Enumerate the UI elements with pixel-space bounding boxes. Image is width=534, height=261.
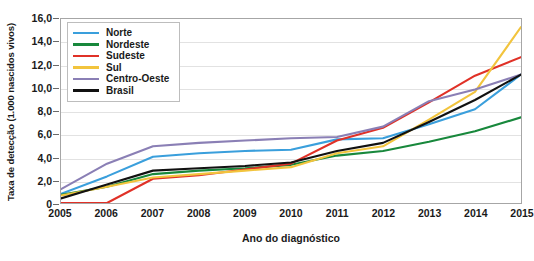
x-tick-label: 2009	[233, 207, 256, 219]
legend-item-label: Brasil	[106, 85, 134, 97]
legend-item-label: Centro-Oeste	[106, 73, 169, 85]
y-tick-mark	[53, 88, 59, 89]
line-swatch-icon	[73, 89, 99, 92]
legend-item: Centro-Oeste	[73, 73, 169, 85]
line-swatch-icon	[73, 66, 99, 69]
legend-item-label: Sul	[106, 62, 122, 74]
y-tick-mark	[53, 65, 59, 66]
legend-item-label: Norte	[106, 27, 132, 39]
y-tick-mark	[53, 204, 59, 205]
y-tick-label: 14,0	[32, 35, 52, 47]
x-tick-label: 2008	[187, 207, 210, 219]
series-line-nordeste	[61, 117, 521, 195]
legend-item-label: Sudeste	[106, 50, 145, 62]
y-tick-label: 6,0	[37, 128, 52, 140]
line-swatch-icon	[73, 55, 99, 58]
legend-item: Norte	[73, 27, 169, 39]
legend-item: Sudeste	[73, 50, 169, 62]
x-tick-label: 2011	[326, 207, 349, 219]
x-axis-tick-labels: 2005200620072008200920102011201220132014…	[60, 207, 522, 223]
line-swatch-icon	[73, 78, 99, 81]
y-tick-label: 10,0	[32, 82, 52, 94]
line-swatch-icon	[73, 43, 99, 46]
legend: NorteNordesteSudesteSulCentro-OesteBrasi…	[67, 22, 180, 102]
x-tick-label: 2014	[464, 207, 487, 219]
y-tick-label: 8,0	[37, 105, 52, 117]
y-tick-mark	[53, 41, 59, 42]
x-tick-label: 2013	[418, 207, 441, 219]
legend-item: Sul	[73, 62, 169, 74]
y-tick-label: 2,0	[37, 175, 52, 187]
x-tick-label: 2012	[372, 207, 395, 219]
x-tick-label: 2006	[95, 207, 118, 219]
y-tick-mark	[53, 111, 59, 112]
x-tick-label: 2007	[141, 207, 164, 219]
y-tick-label: 16,0	[32, 12, 52, 24]
x-tick-label: 2005	[48, 207, 71, 219]
y-tick-label: 4,0	[37, 152, 52, 164]
y-tick-mark	[53, 134, 59, 135]
legend-item: Brasil	[73, 85, 169, 97]
legend-item-label: Nordeste	[106, 39, 149, 51]
y-axis-tick-labels: 02,04,06,08,010,012,014,016,0	[18, 18, 56, 204]
legend-item: Nordeste	[73, 39, 169, 51]
x-tick-label: 2015	[510, 207, 533, 219]
line-swatch-icon	[73, 32, 99, 35]
y-tick-mark	[53, 18, 59, 19]
y-tick-label: 12,0	[32, 59, 52, 71]
y-tick-mark	[53, 181, 59, 182]
x-tick-label: 2010	[279, 207, 302, 219]
x-axis-title: Ano do diagnóstico	[60, 232, 522, 244]
y-tick-mark	[53, 158, 59, 159]
